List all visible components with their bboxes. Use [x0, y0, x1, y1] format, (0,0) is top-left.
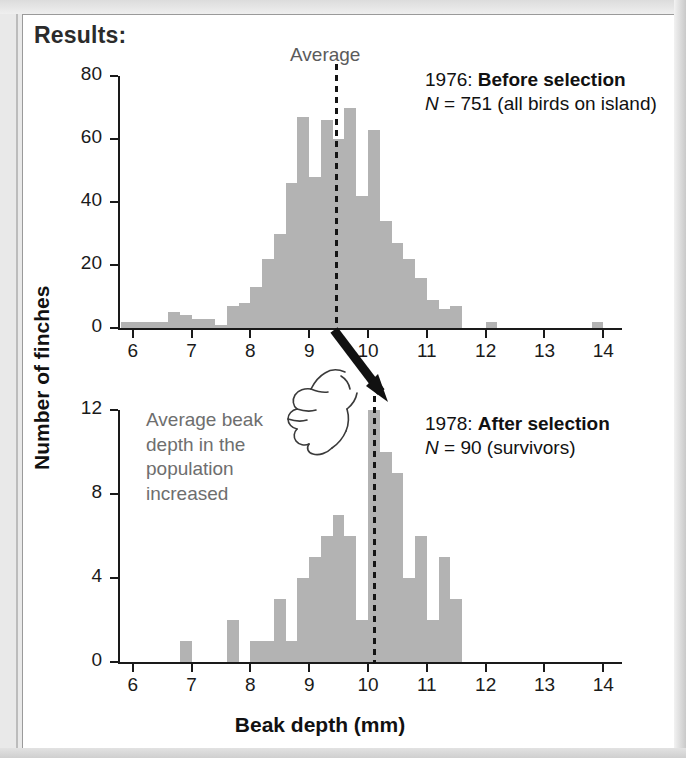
histogram-bar: [144, 322, 156, 328]
histogram-bar: [403, 259, 415, 328]
x-tick-label: 9: [289, 340, 329, 362]
histogram-bar: [356, 196, 368, 328]
histogram-bar: [309, 177, 321, 328]
average-dashed-line: [373, 396, 376, 664]
y-tick: [110, 577, 118, 579]
histogram-bar: [380, 221, 392, 328]
y-tick: [110, 138, 118, 140]
y-tick-label: 0: [56, 649, 102, 671]
histogram-bar: [368, 130, 380, 328]
histogram-bar: [180, 315, 192, 328]
x-tick: [367, 330, 369, 338]
y-tick-label: 12: [56, 397, 102, 419]
x-tick: [249, 664, 251, 672]
x-tick-label: 11: [407, 674, 447, 696]
histogram-bar: [592, 322, 604, 328]
histogram-bar: [286, 183, 298, 328]
x-tick-label: 7: [172, 340, 212, 362]
x-tick: [602, 664, 604, 672]
y-tick-label: 4: [56, 565, 102, 587]
page-left-rule: [16, 14, 18, 748]
histogram-bar: [227, 620, 239, 662]
histogram-bar: [321, 120, 333, 328]
panel2-annotation: Average beak depth in the population inc…: [146, 408, 306, 507]
y-tick: [110, 327, 118, 329]
x-tick: [543, 330, 545, 338]
histogram-bar: [192, 319, 204, 328]
histogram-bar: [262, 259, 274, 328]
x-tick-label: 6: [113, 340, 153, 362]
panel2-n-value: = 90 (survivors): [444, 437, 575, 458]
histogram-bar: [168, 312, 180, 328]
x-tick: [132, 330, 134, 338]
y-tick-label: 0: [56, 315, 102, 337]
figure-page: Results: Number of finches 0204060806789…: [0, 0, 686, 758]
histogram-bar: [227, 306, 239, 328]
y-tick: [110, 661, 118, 663]
histogram-bar: [439, 309, 451, 328]
histogram-bar: [274, 234, 286, 329]
histogram-bar: [297, 578, 309, 662]
panel2-n-symbol: N: [425, 437, 439, 458]
x-tick-label: 9: [289, 674, 329, 696]
histogram-bar: [415, 278, 427, 328]
x-tick-label: 8: [230, 674, 270, 696]
x-tick: [191, 330, 193, 338]
histogram-bar: [321, 536, 333, 662]
histogram-bar: [415, 536, 427, 662]
x-tick-label: 8: [230, 340, 270, 362]
histogram-bar: [250, 641, 262, 662]
y-axis-line: [118, 76, 120, 330]
histogram-bar: [180, 641, 192, 662]
histogram-bar: [439, 557, 451, 662]
y-tick-label: 40: [56, 189, 102, 211]
x-tick: [367, 664, 369, 672]
histogram-bar: [309, 557, 321, 662]
panel2-year: 1978:: [425, 413, 473, 434]
x-tick-label: 10: [348, 674, 388, 696]
x-tick-label: 13: [524, 674, 564, 696]
panel1-n-value: = 751 (all birds on island): [444, 93, 657, 114]
histogram-bar: [403, 578, 415, 662]
panel1-selection-label: Before selection: [478, 69, 626, 90]
histogram-bar: [203, 319, 215, 328]
y-axis-line: [118, 410, 120, 664]
histogram-bar: [380, 452, 392, 662]
histogram-bar: [121, 322, 133, 328]
x-tick: [602, 330, 604, 338]
panel1-n-symbol: N: [425, 93, 439, 114]
panel1-caption: 1976: Before selection N = 751 (all bird…: [425, 68, 657, 117]
y-tick: [110, 409, 118, 411]
histogram-bar: [427, 300, 439, 328]
x-tick-label: 6: [113, 674, 153, 696]
histogram-bar: [215, 325, 227, 328]
page-right-edge: [674, 0, 686, 758]
page-top-edge: [0, 0, 686, 14]
y-tick-label: 20: [56, 252, 102, 274]
panel2-selection-label: After selection: [478, 413, 610, 434]
x-tick-label: 14: [583, 674, 623, 696]
x-tick-label: 10: [348, 340, 388, 362]
histogram-bar: [427, 620, 439, 662]
panel2-caption: 1978: After selection N = 90 (survivors): [425, 412, 610, 461]
y-tick: [110, 201, 118, 203]
x-axis-line: [118, 662, 622, 664]
histogram-bar: [250, 287, 262, 328]
y-axis-title: Number of finches: [30, 286, 54, 470]
x-tick: [426, 330, 428, 338]
x-tick: [308, 330, 310, 338]
x-tick-label: 12: [466, 340, 506, 362]
average-dashed-line: [335, 64, 338, 330]
x-axis-line: [118, 328, 622, 330]
x-tick-label: 7: [172, 674, 212, 696]
histogram-bar: [133, 322, 145, 328]
x-tick: [249, 330, 251, 338]
y-tick-label: 8: [56, 481, 102, 503]
page-bottom-edge: [0, 748, 686, 758]
x-tick: [191, 664, 193, 672]
x-tick: [543, 664, 545, 672]
y-tick: [110, 75, 118, 77]
y-tick: [110, 493, 118, 495]
histogram-bar: [274, 599, 286, 662]
x-tick: [426, 664, 428, 672]
